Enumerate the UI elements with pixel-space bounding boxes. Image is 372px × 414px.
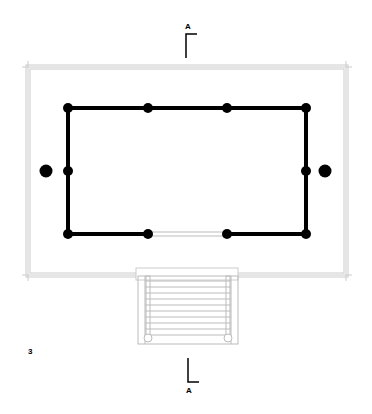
section-label-bottom: A (186, 386, 192, 395)
section-marker-top (186, 34, 197, 58)
stair-notch (136, 268, 238, 280)
section-label-top: A (185, 22, 191, 31)
column-frame (68, 108, 306, 234)
columns (40, 103, 332, 239)
section-marker-bottom (188, 358, 199, 382)
floor-plan (0, 0, 372, 414)
door-opening (148, 232, 227, 236)
staircase (138, 276, 238, 344)
figure-number: 3 (28, 347, 32, 356)
